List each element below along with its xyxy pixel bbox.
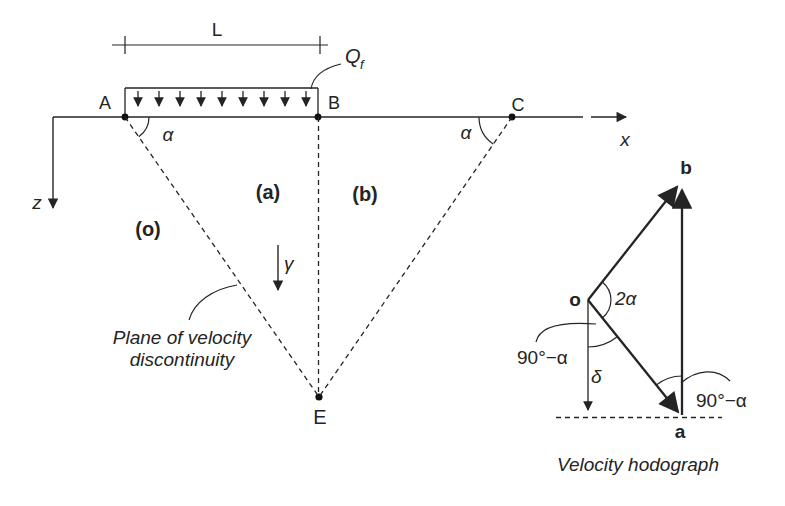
x-axis-label: x xyxy=(619,129,631,150)
footing-mechanism-figure: x z L Q xyxy=(0,0,785,506)
plane-callout: Plane of velocity discontinuity xyxy=(113,285,253,370)
plane-caption-line1: Plane of velocity xyxy=(113,327,253,348)
vertex-o-label: o xyxy=(569,289,581,310)
region-o-label: (o) xyxy=(135,218,161,240)
alpha-label-right: α xyxy=(461,122,473,143)
leader-90-alpha-left xyxy=(536,323,596,342)
point-C-label: C xyxy=(512,95,525,115)
region-b-label: (b) xyxy=(352,183,378,205)
slip-line-CE xyxy=(319,117,512,397)
z-axis-label: z xyxy=(31,192,42,213)
plane-caption-line2: discontinuity xyxy=(130,349,236,370)
distributed-load xyxy=(125,88,318,117)
point-E-label: E xyxy=(313,406,326,428)
hodograph-caption: Velocity hodograph xyxy=(557,454,719,475)
velocity-hodograph: o b a 2α 90°−α 90°−α δ Velocity hodograp… xyxy=(517,157,747,475)
vertex-a-label: a xyxy=(675,421,686,442)
qf-leader-line xyxy=(311,64,341,89)
leader-90-alpha-right xyxy=(681,372,730,383)
alpha-arc-right xyxy=(479,117,493,144)
load-arrows xyxy=(138,91,306,106)
plane-leader-line xyxy=(189,285,237,320)
vertex-b-label: b xyxy=(680,157,692,178)
vector-ob xyxy=(588,187,677,300)
angle-90-alpha-left-label: 90°−α xyxy=(517,347,568,368)
arc-90-alpha-right xyxy=(657,376,683,385)
qf-subscript: f xyxy=(360,57,365,72)
arc-2alpha xyxy=(602,282,611,318)
point-B-label: B xyxy=(328,93,340,113)
vector-oa xyxy=(588,300,678,412)
alpha-arc-left xyxy=(139,117,149,137)
figure-canvas: x z L Q xyxy=(0,0,785,506)
load-magnitude-label: Q f xyxy=(311,45,365,89)
region-a-label: (a) xyxy=(256,181,280,203)
dimension-label: L xyxy=(212,19,223,40)
qf-symbol: Q xyxy=(345,45,361,67)
delta-label: δ xyxy=(591,366,602,387)
point-A-label: A xyxy=(99,93,111,113)
arc-90-alpha-left xyxy=(588,337,617,347)
alpha-label-left: α xyxy=(163,124,175,145)
dimension-L: L xyxy=(112,19,328,54)
angle-90-alpha-right-label: 90°−α xyxy=(696,390,747,411)
angle-2alpha-label: 2α xyxy=(614,288,638,309)
gamma-label: γ xyxy=(284,253,295,274)
